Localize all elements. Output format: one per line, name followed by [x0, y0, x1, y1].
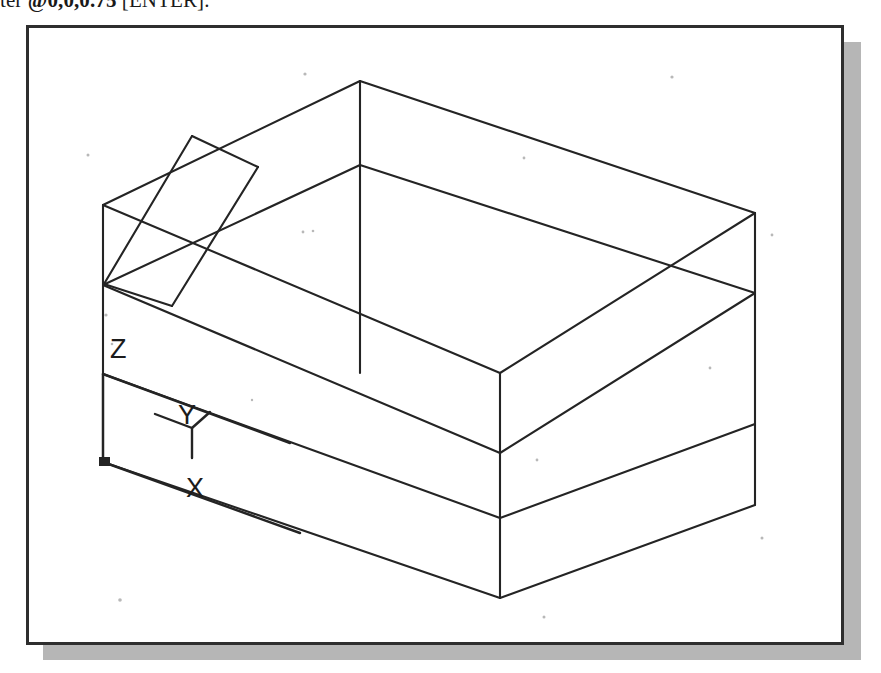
- paper-speck: [118, 598, 122, 602]
- slot-edge-right-bottom: [172, 167, 258, 306]
- edge-top-right-to-front: [500, 213, 755, 373]
- wireframe-drawing: Z Y X: [0, 0, 881, 673]
- ucs-y-label: Y: [178, 400, 196, 430]
- edge-top-left-to-front: [103, 205, 500, 373]
- paper-speck: [761, 537, 764, 540]
- edge-upper-band-right-front: [500, 293, 755, 453]
- edge-top-back-to-left: [103, 81, 360, 205]
- ucs-x-label: X: [186, 473, 204, 503]
- edge-upper-band-left-front: [103, 285, 500, 453]
- edge-top-back-to-right: [360, 81, 755, 213]
- edge-mid-band-right-front: [500, 424, 755, 518]
- paper-speck: [771, 234, 774, 237]
- paper-speck: [251, 399, 253, 401]
- paper-speck: [536, 459, 539, 462]
- paper-speck: [303, 72, 306, 75]
- edge-bottom-right-front: [500, 505, 755, 598]
- paper-speck: [670, 75, 673, 78]
- ucs-z-label: Z: [110, 334, 127, 364]
- ucs-origin-box: [99, 457, 110, 466]
- edge-upper-band-back-right: [360, 165, 755, 293]
- paper-speck: [87, 154, 90, 157]
- paper-speck: [104, 313, 107, 316]
- slot-edge-bottom-left: [104, 284, 172, 306]
- paper-speck: [302, 231, 305, 234]
- slot-edge-top-right: [192, 136, 258, 167]
- paper-speck: [312, 230, 315, 233]
- paper-speck: [543, 616, 546, 619]
- paper-speck: [709, 367, 712, 370]
- ucs-y-axis-line: [103, 374, 290, 443]
- edge-upper-band-left-back: [103, 165, 360, 285]
- drawing-canvas[interactable]: Z Y X: [0, 0, 881, 673]
- paper-speck: [523, 157, 526, 160]
